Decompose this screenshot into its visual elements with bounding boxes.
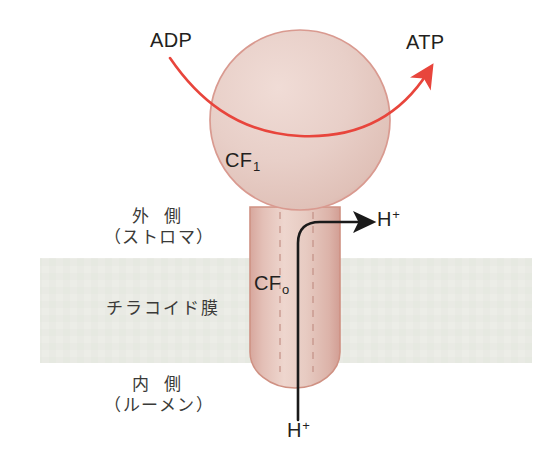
cf1-label-subscript: 1 — [253, 159, 261, 174]
outer-side-label-line1: 外 側 — [97, 208, 221, 226]
diagram-canvas — [0, 0, 540, 469]
atp-label: ATP — [406, 32, 445, 53]
cf0-label-subscript: o — [282, 282, 290, 297]
proton-label-stroma-charge: + — [392, 207, 400, 222]
cf0-label-base: CF — [254, 272, 281, 294]
proton-label-lumen-charge: + — [302, 418, 310, 433]
cf0-cylinder — [250, 207, 340, 388]
adp-label: ADP — [150, 30, 192, 51]
proton-label-stroma: H+ — [377, 209, 400, 230]
inner-side-lumen-label: 内 側 （ルーメン） — [97, 376, 221, 415]
outer-side-stroma-label: 外 側 （ストロマ） — [97, 208, 221, 247]
proton-label-stroma-base: H — [377, 208, 392, 230]
cf0-label: CFo — [254, 273, 289, 294]
proton-label-lumen-base: H — [287, 419, 302, 441]
proton-label-lumen: H+ — [287, 420, 310, 441]
inner-side-label-line1: 内 側 — [97, 376, 221, 394]
cf1-label-base: CF — [225, 149, 252, 171]
thylakoid-membrane-label: チラコイド膜 — [88, 300, 238, 318]
inner-side-label-line2: （ルーメン） — [97, 397, 221, 415]
cf1-label: CF1 — [225, 150, 260, 171]
atp-synthase-diagram: ADP ATP CF1 CFo H+ H+ 外 側 （ストロマ） チラコイド膜 … — [0, 0, 540, 469]
outer-side-label-line2: （ストロマ） — [97, 229, 221, 247]
